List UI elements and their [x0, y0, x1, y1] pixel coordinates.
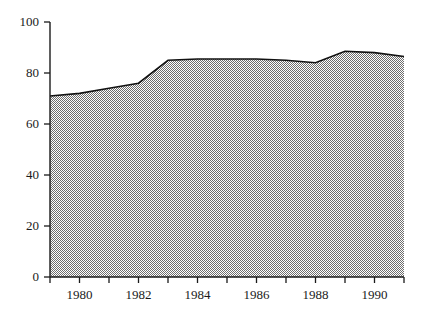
x-axis-tick-label: 1982: [109, 288, 169, 301]
x-axis-tick-label: 1986: [227, 288, 287, 301]
y-axis-tick-label: 80: [0, 66, 39, 79]
area-fill: [50, 51, 404, 277]
chart-canvas: [0, 0, 424, 313]
x-axis-tick-label: 1980: [50, 288, 110, 301]
y-axis-tick-label: 0: [0, 270, 39, 283]
x-axis-ticks: [50, 277, 404, 283]
y-axis-tick-label: 60: [0, 117, 39, 130]
y-axis-tick-label: 100: [0, 15, 39, 28]
x-axis-tick-label: 1990: [345, 288, 405, 301]
area-chart: 020406080100 198019821984198619881990: [0, 0, 424, 313]
y-axis-ticks: [44, 22, 50, 277]
y-axis-tick-label: 40: [0, 168, 39, 181]
x-axis-tick-label: 1988: [286, 288, 346, 301]
area-series-group: [50, 51, 404, 277]
y-axis-tick-label: 20: [0, 219, 39, 232]
x-axis-tick-label: 1984: [168, 288, 228, 301]
